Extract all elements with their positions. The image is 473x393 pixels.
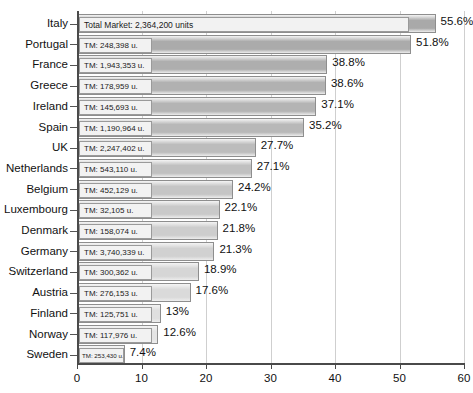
bar-annotation: TM: 2,247,402 u. (79, 141, 152, 156)
bar-value-label: 35.2% (309, 119, 342, 131)
bar-row: TM: 145,693 u.37.1% (77, 97, 464, 116)
bar-row: TM: 1,943,353 u.38.8% (77, 55, 464, 74)
y-axis-label-luxembourg: Luxembourg (4, 200, 68, 219)
bar-row: TM: 32,105 u.22.1% (77, 200, 464, 219)
bar-row: TM: 125,751 u.13% (77, 304, 464, 323)
y-axis-tick (70, 44, 77, 45)
bar-germany[interactable]: TM: 3,740,339 u. (77, 242, 214, 261)
y-axis-tick (70, 24, 77, 25)
bar-row: TM: 543,110 u.27.1% (77, 159, 464, 178)
bar-rows: Total Market: 2,364,200 units55.6%TM: 24… (77, 11, 464, 363)
bar-uk[interactable]: TM: 2,247,402 u. (77, 138, 256, 157)
y-axis-label-france: France (32, 55, 68, 74)
bar-value-label: 51.8% (416, 36, 449, 48)
y-axis-tick (70, 293, 77, 294)
bar-row: TM: 2,247,402 u.27.7% (77, 138, 464, 157)
bar-value-label: 27.1% (257, 160, 290, 172)
bar-netherlands[interactable]: TM: 543,110 u. (77, 159, 252, 178)
x-axis-tick-50 (400, 363, 401, 369)
bar-row: TM: 300,362 u.18.9% (77, 262, 464, 281)
bar-annotation: TM: 3,740,339 u. (79, 245, 152, 260)
bar-row: TM: 276,153 u.17.6% (77, 283, 464, 302)
y-axis-label-finland: Finland (30, 304, 68, 323)
bar-france[interactable]: TM: 1,943,353 u. (77, 55, 327, 74)
bar-annotation: TM: 452,129 u. (79, 183, 152, 198)
bar-greece[interactable]: TM: 178,959 u. (77, 76, 326, 95)
y-axis-tick (70, 86, 77, 87)
bar-annotation: TM: 125,751 u. (79, 307, 152, 322)
bar-belgium[interactable]: TM: 452,129 u. (77, 180, 233, 199)
bar-annotation: TM: 300,362 u. (79, 265, 152, 280)
bar-value-label: 12.6% (163, 326, 196, 338)
y-axis-label-netherlands: Netherlands (6, 159, 68, 178)
y-axis-label-uk: UK (52, 138, 68, 157)
y-axis-tick (70, 231, 77, 232)
y-axis-tick (70, 210, 77, 211)
bar-denmark[interactable]: TM: 158,074 u. (77, 221, 218, 240)
y-axis-label-italy: Italy (47, 14, 68, 33)
y-axis-tick (70, 189, 77, 190)
x-axis-tick-10 (142, 363, 143, 369)
x-axis-tick-label-20: 20 (200, 372, 213, 384)
bar-sweden[interactable]: TM: 253,430 u. (77, 345, 125, 364)
bar-value-label: 55.6% (441, 15, 473, 27)
bar-annotation: TM: 276,153 u. (79, 286, 152, 301)
bar-value-label: 18.9% (204, 263, 237, 275)
x-axis-tick-0 (77, 363, 78, 369)
y-axis-label-belgium: Belgium (26, 180, 68, 199)
bar-luxembourg[interactable]: TM: 32,105 u. (77, 200, 220, 219)
x-axis-tick-label-40: 40 (329, 372, 342, 384)
bar-finland[interactable]: TM: 125,751 u. (77, 304, 161, 323)
bar-annotation: Total Market: 2,364,200 units (79, 17, 409, 32)
bar-norway[interactable]: TM: 117,976 u. (77, 325, 158, 344)
y-axis-label-austria: Austria (32, 283, 68, 302)
bar-row: TM: 3,740,339 u.21.3% (77, 242, 464, 261)
bar-annotation: TM: 248,398 u. (79, 38, 152, 53)
bar-italy[interactable]: Total Market: 2,364,200 units (77, 14, 436, 33)
y-axis-label-ireland: Ireland (33, 97, 68, 116)
x-axis-tick-40 (335, 363, 336, 369)
bar-portugal[interactable]: TM: 248,398 u. (77, 35, 411, 54)
bar-row: TM: 452,129 u.24.2% (77, 180, 464, 199)
bar-value-label: 13% (166, 305, 189, 317)
y-axis-tick (70, 334, 77, 335)
y-axis-tick (70, 272, 77, 273)
bar-spain[interactable]: TM: 1,190,964 u. (77, 118, 304, 137)
x-axis-tick-label-10: 10 (135, 372, 148, 384)
y-axis-tick (70, 168, 77, 169)
y-axis-label-greece: Greece (30, 76, 68, 95)
x-axis-tick-60 (464, 363, 465, 369)
y-axis-label-norway: Norway (29, 325, 68, 344)
bar-ireland[interactable]: TM: 145,693 u. (77, 97, 316, 116)
bar-annotation: TM: 1,943,353 u. (79, 58, 152, 73)
bar-value-label: 17.6% (196, 284, 229, 296)
bar-value-label: 27.7% (261, 139, 294, 151)
bar-austria[interactable]: TM: 276,153 u. (77, 283, 191, 302)
bar-annotation: TM: 145,693 u. (79, 100, 152, 115)
bar-annotation: TM: 253,430 u. (79, 348, 124, 363)
bar-value-label: 24.2% (238, 181, 271, 193)
y-axis-tick (70, 106, 77, 107)
bar-row: TM: 1,190,964 u.35.2% (77, 118, 464, 137)
y-axis-tick (70, 65, 77, 66)
y-axis-label-switzerland: Switzerland (9, 262, 68, 281)
y-axis-tick (70, 355, 77, 356)
bar-annotation: TM: 117,976 u. (79, 328, 152, 343)
bar-value-label: 37.1% (321, 98, 354, 110)
bar-row: TM: 117,976 u.12.6% (77, 325, 464, 344)
bar-annotation: TM: 178,959 u. (79, 79, 152, 94)
y-axis-label-germany: Germany (21, 242, 68, 261)
bar-value-label: 21.8% (223, 222, 256, 234)
y-axis-label-sweden: Sweden (26, 345, 68, 364)
bar-value-label: 22.1% (225, 201, 258, 213)
bar-value-label: 7.4% (130, 346, 156, 358)
y-axis-label-spain: Spain (39, 118, 68, 137)
y-axis-tick (70, 313, 77, 314)
bar-row: TM: 253,430 u.7.4% (77, 345, 464, 364)
plot-area: Total Market: 2,364,200 units55.6%TM: 24… (77, 11, 464, 363)
bar-row: TM: 178,959 u.38.6% (77, 76, 464, 95)
bar-annotation: TM: 158,074 u. (79, 224, 152, 239)
bar-row: TM: 158,074 u.21.8% (77, 221, 464, 240)
y-axis-label-portugal: Portugal (25, 35, 68, 54)
bar-switzerland[interactable]: TM: 300,362 u. (77, 262, 199, 281)
